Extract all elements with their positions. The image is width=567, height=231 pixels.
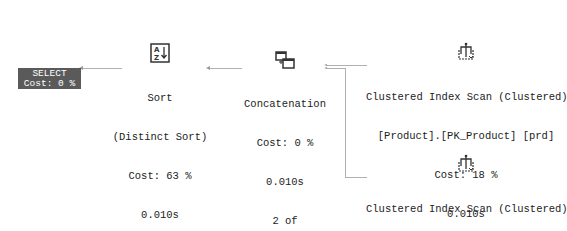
connector-scan2-concat-h2 (345, 177, 367, 178)
svg-text:A: A (154, 46, 160, 54)
concatenation-node[interactable]: Concatenation Cost: 0 % 0.010s 2 of 2 (1… (240, 25, 330, 231)
concat-cost: Cost: 0 % (240, 137, 330, 150)
svg-text:Z: Z (154, 54, 159, 62)
sort-subname: (Distinct Sort) (100, 131, 220, 144)
scan2-name: Clustered Index Scan (Clustered) (366, 203, 566, 216)
concatenation-icon (275, 51, 295, 69)
sort-name: Sort (100, 92, 220, 105)
connector-scan1-concat (327, 65, 367, 66)
clustered-index-scan-icon (456, 42, 476, 62)
sort-node[interactable]: A Z Sort (Distinct Sort) Cost: 63 % 0.01… (100, 17, 220, 231)
clustered-index-scan-icon (456, 154, 476, 174)
sort-cost: Cost: 63 % (100, 170, 220, 183)
select-label-box[interactable]: SELECT Cost: 0 % (18, 68, 81, 89)
sort-az-icon: A Z (150, 43, 170, 63)
concat-rows: 2 of (240, 215, 330, 228)
connector-scan2-concat-v (345, 68, 346, 178)
concat-name: Concatenation (240, 98, 330, 111)
scan1-name: Clustered Index Scan (Clustered) (366, 91, 566, 104)
clustered-index-scan-node-2[interactable]: Clustered Index Scan (Clustered) [Produc… (366, 128, 566, 231)
select-cost: Cost: 0 % (18, 79, 81, 89)
concat-time: 0.010s (240, 176, 330, 189)
sort-time: 0.010s (100, 209, 220, 222)
